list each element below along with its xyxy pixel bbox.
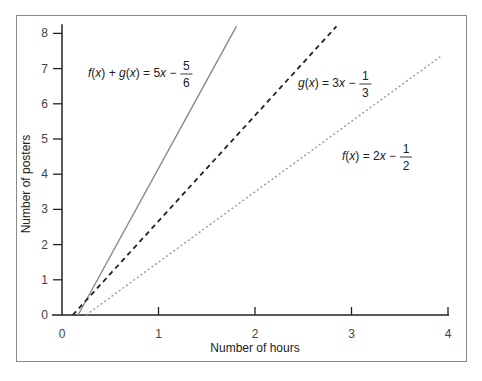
y-tick-label: 3 [41, 202, 48, 216]
fraction-denominator: 2 [403, 159, 410, 173]
x-tick-label: 4 [445, 327, 452, 341]
series-line-dotted [86, 57, 440, 315]
fraction-numerator: 5 [183, 59, 190, 73]
y-tick-label: 6 [41, 97, 48, 111]
x-tick-label: 3 [348, 327, 355, 341]
fraction-numerator: 1 [403, 142, 410, 156]
x-tick-label: 2 [252, 327, 259, 341]
equation-label-2: g(x) = 3x − [298, 76, 355, 90]
y-tick-label: 2 [41, 238, 48, 252]
x-tick-label: 0 [59, 327, 66, 341]
y-tick-label: 4 [41, 167, 48, 181]
equation-label-3: f(x) = 2x − [342, 149, 396, 163]
fraction-denominator: 6 [183, 76, 190, 90]
equation-label-1: f(x) + g(x) = 5x − [88, 66, 176, 80]
y-tick-label: 1 [41, 273, 48, 287]
fraction-denominator: 3 [362, 86, 369, 100]
fraction-numerator: 1 [362, 69, 369, 83]
y-tick-label: 5 [41, 132, 48, 146]
x-tick-label: 1 [155, 327, 162, 341]
y-tick-label: 8 [41, 26, 48, 40]
x-axis-title: Number of hours [210, 341, 299, 355]
line-chart: 01234567801234Number of hoursNumber of p… [0, 0, 482, 381]
y-tick-label: 7 [41, 62, 48, 76]
y-tick-label: 0 [41, 308, 48, 322]
y-axis-title: Number of posters [19, 135, 33, 234]
